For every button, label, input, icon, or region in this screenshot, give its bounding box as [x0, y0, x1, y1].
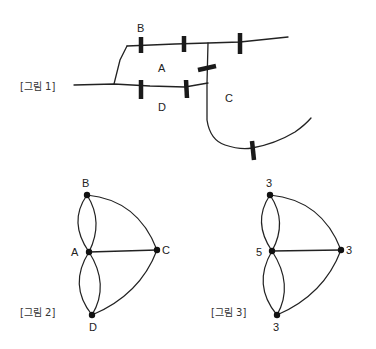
node-c	[154, 247, 160, 253]
edge-mid-bottom-2	[272, 251, 284, 315]
degree-label-middle: 5	[256, 246, 262, 258]
degree-label-top: 3	[266, 177, 272, 189]
edge-mid-top-1	[261, 195, 272, 251]
edge-d-c	[92, 250, 157, 315]
edge-mid-bottom-1	[263, 251, 277, 315]
figure-1-map: B A D C [그림 1]	[20, 22, 311, 160]
konigsberg-diagram: B A D C [그림 1] B A C D [그림 2]	[0, 0, 376, 349]
node-top	[267, 192, 273, 198]
node-d	[89, 312, 95, 318]
edge-a-d-2	[89, 252, 100, 315]
edge-top-right	[270, 195, 341, 250]
river-right	[207, 43, 311, 149]
edge-mid-right	[272, 250, 341, 251]
region-label-a: A	[158, 62, 166, 74]
edge-bottom-right	[277, 250, 341, 315]
bridge-4	[198, 66, 216, 70]
figure-2-caption: [그림 2]	[20, 307, 55, 318]
node-label-a: A	[71, 246, 79, 258]
edge-a-d-1	[79, 252, 92, 315]
edge-a-b-2	[87, 195, 96, 252]
node-label-b: B	[82, 177, 89, 189]
region-label-b: B	[137, 22, 144, 34]
node-right	[338, 247, 344, 253]
degree-label-right: 3	[346, 244, 352, 256]
edge-a-b-1	[78, 195, 89, 252]
figure-3-caption: [그림 3]	[211, 307, 246, 318]
node-label-d: D	[89, 321, 97, 333]
bridge-7	[252, 141, 254, 160]
region-label-c: C	[225, 92, 233, 104]
edge-mid-top-2	[270, 195, 280, 251]
edge-a-c	[89, 250, 157, 252]
region-label-d: D	[158, 101, 166, 113]
node-b	[84, 192, 90, 198]
river-left-branch	[114, 46, 127, 84]
figure-2-graph: B A C D [그림 2]	[20, 177, 170, 333]
node-middle	[269, 248, 275, 254]
figure-3-graph: 3 5 3 3 [그림 3]	[211, 177, 352, 333]
figure-1-caption: [그림 1]	[20, 81, 55, 92]
edge-b-c	[87, 195, 157, 250]
node-bottom	[274, 312, 280, 318]
node-a	[86, 249, 92, 255]
node-label-c: C	[162, 244, 170, 256]
bridge-6	[186, 80, 187, 98]
degree-label-bottom: 3	[273, 321, 279, 333]
